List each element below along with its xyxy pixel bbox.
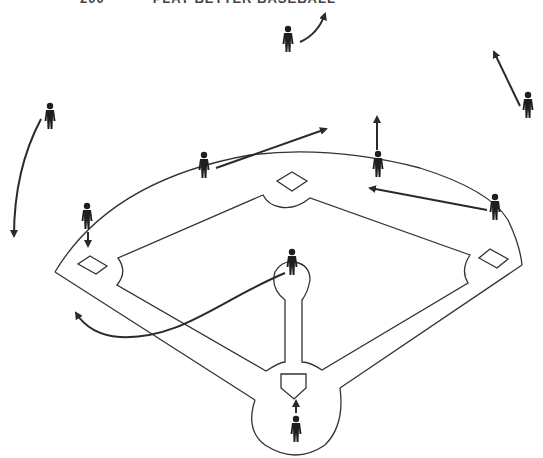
home-plate [281,374,306,399]
outfield-arc [55,152,522,272]
second-base [277,172,307,191]
infield-grass-edge [117,195,470,371]
player-icon-second-baseman [373,151,384,177]
movement-arrow [14,119,41,236]
player-icon-shortstop [199,152,210,178]
player-icon-left-fielder [45,103,56,129]
right-foul-line-outer [340,265,522,388]
movement-arrow [494,52,520,106]
first-base [479,249,508,268]
player-icon-third-baseman [82,203,93,229]
left-foul-line-outer [55,272,255,400]
movement-arrow [370,188,487,210]
player-icon-first-baseman [490,194,501,220]
player-icon-center-fielder [283,26,294,52]
movement-arrow [300,14,325,42]
baseball-field-diagram [0,0,543,458]
movement-arrow [216,129,326,168]
player-icon-right-fielder [523,92,534,118]
third-base [78,256,107,274]
player-icon-pitcher [287,249,298,275]
player-icon-catcher [291,416,302,442]
